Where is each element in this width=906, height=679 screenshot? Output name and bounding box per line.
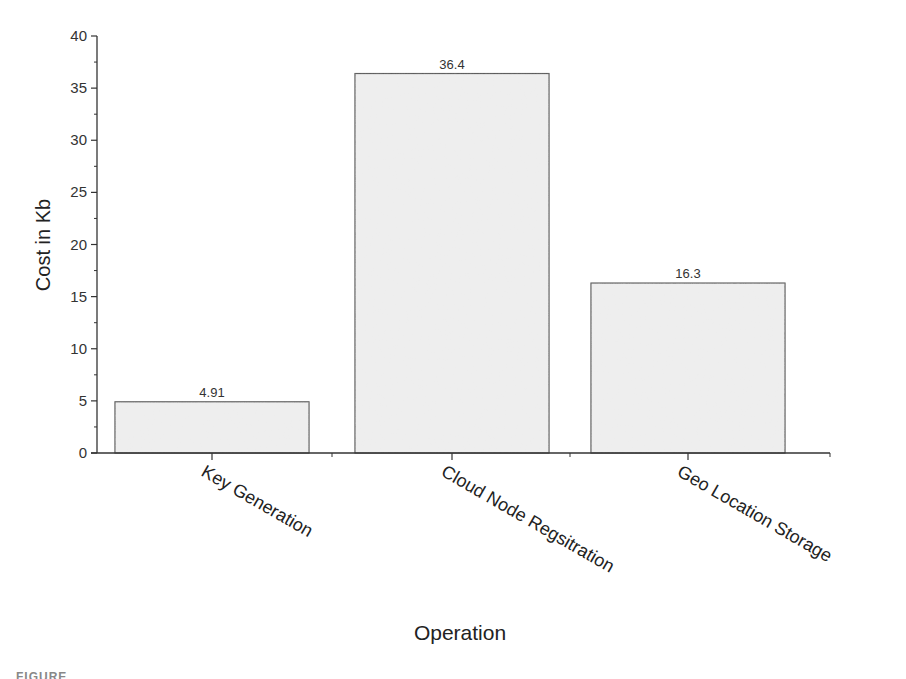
figure-caption-fragment: FIGURE [16, 670, 96, 679]
bar-texture [355, 74, 549, 453]
bar-texture [115, 402, 309, 453]
bar-chart: 4.91Key Generation36.4Cloud Node Regsitr… [0, 0, 906, 679]
data-label: 16.3 [675, 266, 700, 281]
y-tick-label: 0 [79, 444, 87, 461]
x-tick-label: Cloud Node Regsitration [438, 461, 618, 576]
y-tick-label: 30 [70, 131, 87, 148]
data-label: 4.91 [199, 385, 224, 400]
y-axis-title: Cost in Kb [32, 199, 54, 291]
bar-texture [591, 283, 785, 453]
y-tick-label: 15 [70, 288, 87, 305]
y-tick-label: 20 [70, 236, 87, 253]
y-tick-label: 5 [79, 392, 87, 409]
data-label: 36.4 [439, 57, 464, 72]
y-tick-label: 10 [70, 340, 87, 357]
y-tick-label: 35 [70, 79, 87, 96]
y-tick-label: 40 [70, 27, 87, 44]
x-tick-label: Key Generation [198, 461, 316, 541]
x-tick-label: Geo Location Storage [674, 461, 836, 566]
y-tick-label: 25 [70, 183, 87, 200]
x-axis-title: Operation [414, 621, 506, 644]
